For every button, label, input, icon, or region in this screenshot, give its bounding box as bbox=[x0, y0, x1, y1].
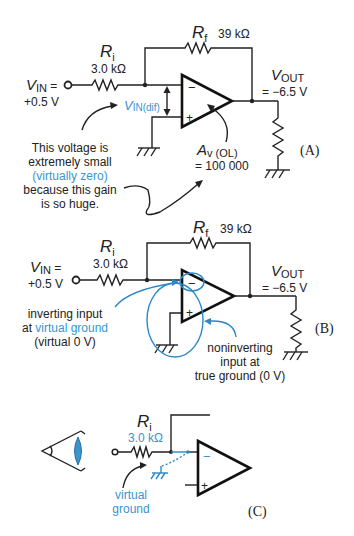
vin-value: +0.5 V bbox=[24, 95, 59, 109]
vin-label: VIN = bbox=[30, 258, 61, 276]
ri-value: 3.0 kΩ bbox=[93, 257, 128, 271]
ground-icon bbox=[137, 148, 160, 156]
panel-a: − + Ri 3.0 kΩ Rf 39 kΩ VIN = +0.5 V VOU bbox=[23, 23, 319, 215]
rf-label: Rf bbox=[192, 23, 208, 44]
pointer-arrow bbox=[210, 321, 236, 337]
input-terminal bbox=[65, 82, 72, 89]
minus-sign: − bbox=[188, 80, 196, 95]
svg-text:is so huge.: is so huge. bbox=[41, 197, 99, 211]
vout-value: = −6.5 V bbox=[262, 281, 307, 295]
panel-b: − + Ri 3.0 kΩ Rf 39 kΩ VIN = +0.5 V VOUT… bbox=[22, 218, 334, 383]
panel-label-b: (B) bbox=[315, 321, 334, 337]
inverting-amplifier-diagram: − + Ri 3.0 kΩ Rf 39 kΩ VIN = +0.5 V VOU bbox=[0, 0, 354, 536]
ri-label: Ri bbox=[100, 237, 115, 258]
load-resistor bbox=[273, 101, 283, 170]
virtual-ground-link bbox=[162, 452, 188, 466]
vout-value: = −6.5 V bbox=[262, 85, 307, 99]
rf-value: 39 kΩ bbox=[218, 27, 250, 41]
plus-sign: + bbox=[186, 306, 193, 320]
ground-icon bbox=[283, 352, 308, 360]
plus-sign: + bbox=[186, 111, 193, 125]
eye-icon bbox=[42, 431, 85, 471]
noninverting-input-highlight bbox=[147, 283, 203, 357]
noninverting-note: noninverting input at true ground (0 V) bbox=[195, 341, 286, 383]
vin-value: +0.5 V bbox=[28, 277, 63, 291]
plus-sign: + bbox=[201, 479, 208, 493]
inverting-note: inverting input at virtual ground (virtu… bbox=[22, 307, 108, 349]
svg-text:virtual: virtual bbox=[115, 488, 147, 502]
svg-text:noninverting: noninverting bbox=[207, 341, 272, 355]
ri-label: Ri bbox=[100, 42, 115, 63]
vin-dif-label: VIN(dif) bbox=[124, 98, 160, 113]
pointer-arrow bbox=[115, 283, 174, 307]
pointer-arrow bbox=[82, 106, 112, 130]
rf-label: Rf bbox=[193, 218, 209, 239]
svg-text:input at: input at bbox=[220, 355, 260, 369]
input-terminal bbox=[73, 277, 80, 284]
ri-label: Ri bbox=[137, 412, 152, 433]
svg-text:(virtually zero): (virtually zero) bbox=[32, 169, 107, 183]
minus-sign: − bbox=[203, 449, 211, 464]
vin-label: VIN = bbox=[26, 76, 57, 94]
load-resistor bbox=[291, 296, 301, 352]
svg-text:because this gain: because this gain bbox=[23, 183, 116, 197]
svg-text:ground: ground bbox=[112, 502, 149, 516]
panel-c: − + Ri 3.0 kΩ (C) virtual ground bbox=[42, 412, 267, 520]
svg-text:This voltage is: This voltage is bbox=[32, 141, 109, 155]
gain-label: Av (OL) bbox=[196, 141, 238, 159]
note-text: This voltage is extremely small (virtual… bbox=[23, 141, 116, 211]
panel-label-a: (A) bbox=[300, 143, 320, 159]
virtual-ground-icon bbox=[151, 466, 168, 479]
ri-resistor bbox=[80, 275, 147, 285]
ri-value: 3.0 kΩ bbox=[128, 431, 163, 445]
svg-text:(virtual 0 V): (virtual 0 V) bbox=[34, 335, 95, 349]
panel-label-c: (C) bbox=[248, 504, 267, 520]
svg-text:inverting input: inverting input bbox=[28, 307, 103, 321]
svg-text:at virtual ground: at virtual ground bbox=[22, 321, 108, 335]
virtual-ground-note: virtual ground bbox=[112, 488, 149, 516]
vout-label: VOUT bbox=[271, 66, 305, 84]
ground-icon bbox=[265, 170, 290, 178]
input-terminal bbox=[112, 449, 118, 455]
gain-value: = 100 000 bbox=[195, 159, 249, 173]
svg-text:extremely small: extremely small bbox=[28, 155, 111, 169]
vout-label: VOUT bbox=[271, 262, 305, 280]
ri-resistor bbox=[72, 80, 145, 90]
rf-value: 39 kΩ bbox=[220, 222, 252, 236]
svg-text:true ground (0 V): true ground (0 V) bbox=[195, 369, 286, 383]
ri-value: 3.0 kΩ bbox=[91, 62, 126, 76]
ri-resistor bbox=[118, 447, 171, 457]
